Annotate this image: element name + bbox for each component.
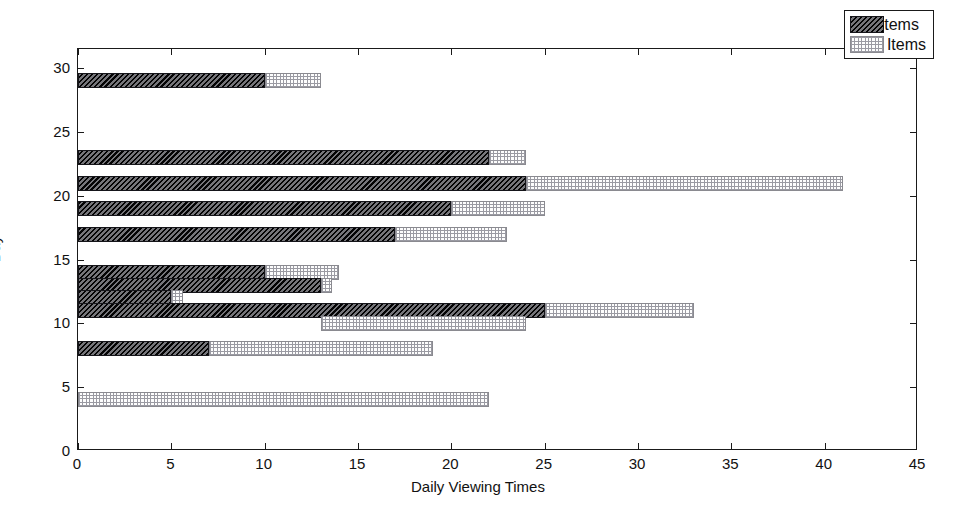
y-tick-label-10: 10 [40, 314, 70, 331]
x-tick-40 [825, 443, 826, 449]
y-tick-30 [910, 68, 916, 69]
bar-segment-new-day-23 [489, 150, 526, 165]
bar-segment-new-day-8 [209, 341, 433, 356]
x-tick-25 [545, 49, 546, 55]
x-tick-20 [451, 49, 452, 55]
legend-item-new-items: New Items [850, 36, 926, 53]
x-tick-10 [265, 49, 266, 55]
y-tick-10 [910, 323, 916, 324]
x-tick-label-35: 35 [722, 455, 739, 472]
bar-segment-new-day-4 [78, 392, 489, 407]
x-tick-0 [78, 49, 79, 55]
bar-segment-new-day-21 [526, 176, 843, 191]
bar-segment-old-day-23 [78, 150, 489, 165]
y-tick-5 [78, 387, 84, 388]
y-tick-label-15: 15 [40, 250, 70, 267]
y-tick-label-20: 20 [40, 186, 70, 203]
bar-segment-old-day-17 [78, 227, 395, 242]
y-tick-10 [78, 323, 84, 324]
chart-legend: Old Items New Items [844, 10, 934, 59]
bar-segment-new-day-19 [451, 201, 544, 216]
plot-area [77, 48, 917, 450]
bar-segment-new-day-29 [265, 73, 321, 88]
x-tick-label-0: 0 [73, 455, 81, 472]
x-tick-label-15: 15 [349, 455, 366, 472]
x-tick-20 [451, 443, 452, 449]
x-tick-label-40: 40 [815, 455, 832, 472]
x-tick-label-30: 30 [629, 455, 646, 472]
x-tick-label-10: 10 [255, 455, 272, 472]
legend-item-old-items: Old Items [850, 16, 926, 33]
y-tick-20 [78, 196, 84, 197]
x-tick-5 [171, 443, 172, 449]
x-tick-25 [545, 443, 546, 449]
x-tick-label-45: 45 [909, 455, 926, 472]
x-tick-label-5: 5 [166, 455, 174, 472]
bar-segment-new-day-10 [321, 316, 526, 331]
bar-segment-old-day-21 [78, 176, 526, 191]
x-tick-35 [731, 443, 732, 449]
bar-segment-new-day-17 [395, 227, 507, 242]
y-tick-25 [78, 132, 84, 133]
x-axis-title: Daily Viewing Times [0, 478, 956, 495]
x-tick-label-20: 20 [442, 455, 459, 472]
x-tick-15 [358, 49, 359, 55]
bar-segment-old-day-8 [78, 341, 209, 356]
x-tick-10 [265, 443, 266, 449]
x-tick-30 [638, 443, 639, 449]
x-tick-30 [638, 49, 639, 55]
x-tick-15 [358, 443, 359, 449]
y-tick-15 [910, 260, 916, 261]
y-tick-5 [910, 387, 916, 388]
bar-segment-old-day-29 [78, 73, 265, 88]
x-tick-5 [171, 49, 172, 55]
chart-figure: Day Daily Viewing Times Old Items New It… [0, 0, 956, 518]
y-tick-label-25: 25 [40, 122, 70, 139]
bar-segment-new-day-13 [321, 278, 332, 293]
x-tick-label-25: 25 [535, 455, 552, 472]
y-tick-25 [910, 132, 916, 133]
y-tick-label-5: 5 [40, 378, 70, 395]
legend-swatch-old-items [850, 16, 884, 33]
x-tick-0 [78, 443, 79, 449]
y-tick-30 [78, 68, 84, 69]
x-tick-40 [825, 49, 826, 55]
y-tick-15 [78, 260, 84, 261]
y-tick-label-30: 30 [40, 59, 70, 76]
legend-swatch-new-items [850, 36, 884, 53]
y-axis-title: Day [0, 236, 3, 263]
y-tick-20 [910, 196, 916, 197]
bar-segment-new-day-11 [545, 303, 694, 318]
bar-segment-old-day-19 [78, 201, 451, 216]
y-tick-label-0: 0 [40, 442, 70, 459]
x-tick-35 [731, 49, 732, 55]
